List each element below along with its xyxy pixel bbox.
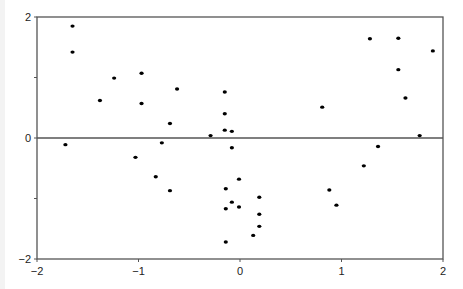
data-point xyxy=(223,90,227,93)
data-point xyxy=(376,145,380,148)
data-point xyxy=(362,164,366,167)
x-tick-label: 1 xyxy=(338,265,344,277)
data-point xyxy=(168,189,172,192)
data-point xyxy=(403,96,407,99)
data-point xyxy=(368,37,372,40)
data-point xyxy=(175,87,179,90)
data-point xyxy=(63,143,67,146)
data-point xyxy=(168,122,172,125)
data-point xyxy=(431,49,435,52)
data-point xyxy=(257,225,261,228)
y-tick-label: 0 xyxy=(25,132,31,144)
data-point xyxy=(112,76,116,79)
data-point xyxy=(334,203,338,206)
data-point xyxy=(237,177,241,180)
data-point xyxy=(257,213,261,216)
data-point xyxy=(224,240,228,243)
x-tick-label: −1 xyxy=(132,265,145,277)
y-tick-label: 2 xyxy=(25,11,31,23)
data-point xyxy=(139,72,143,75)
x-axis: −2−1012 xyxy=(31,259,446,277)
data-points xyxy=(63,24,435,243)
data-point xyxy=(418,134,422,137)
data-point xyxy=(208,134,212,137)
data-point xyxy=(237,205,241,208)
data-point xyxy=(154,175,158,178)
y-tick-label: −2 xyxy=(18,253,31,265)
data-point xyxy=(223,112,227,115)
data-point xyxy=(224,187,228,190)
data-point xyxy=(320,105,324,108)
data-point xyxy=(160,141,164,144)
data-point xyxy=(70,50,74,53)
data-point xyxy=(223,128,227,131)
data-point xyxy=(257,196,261,199)
x-tick-label: 0 xyxy=(237,265,243,277)
data-point xyxy=(98,99,102,102)
data-point xyxy=(230,130,234,133)
data-point xyxy=(396,68,400,71)
data-point xyxy=(230,146,234,149)
x-tick-label: 2 xyxy=(440,265,446,277)
y-axis: −202 xyxy=(18,11,37,265)
data-point xyxy=(251,234,255,237)
data-point xyxy=(133,156,137,159)
x-tick-label: −2 xyxy=(31,265,44,277)
scatter-chart: −2−1012 −202 xyxy=(0,0,463,289)
data-point xyxy=(224,207,228,210)
data-point xyxy=(70,24,74,27)
data-point xyxy=(396,36,400,39)
data-point xyxy=(139,102,143,105)
data-point xyxy=(327,188,331,191)
data-point xyxy=(230,200,234,203)
